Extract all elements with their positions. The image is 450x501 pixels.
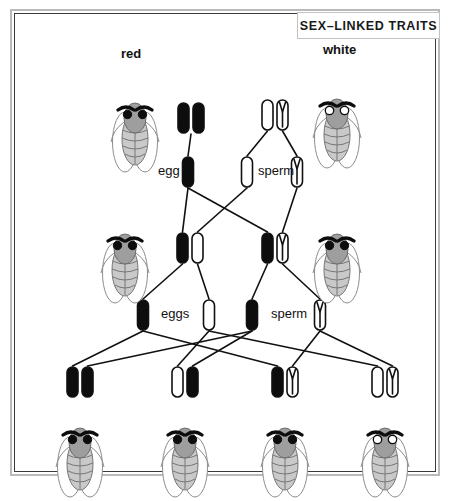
p-sperm-x-allele-0 — [242, 157, 253, 187]
fly-p-mother — [111, 103, 159, 172]
fly-eye-left — [373, 435, 381, 443]
gamete-label-f1-egg-red: eggs — [161, 306, 189, 321]
fly-f1-daughter — [101, 234, 149, 303]
fly-eye-left — [325, 241, 333, 249]
line-f1-daughter-to-egg-red — [143, 264, 183, 299]
line-sperm-y-to-f1-son — [283, 188, 298, 232]
title-plaque: SEX–LINKED TRAITS — [297, 12, 440, 39]
fly-eye-left — [68, 435, 76, 443]
fly-f2-child-4 — [361, 428, 409, 497]
fly-eye-left — [123, 110, 131, 118]
fly-eye-right — [188, 435, 196, 443]
fly-eye-left — [325, 106, 333, 114]
f1-egg-red-allele-0 — [138, 300, 149, 330]
line-egg-to-f1-son — [188, 188, 268, 232]
phenotype-label-p-father: white — [323, 42, 356, 57]
line-egg-to-f2-3 — [209, 331, 378, 366]
fly-eye-right — [388, 435, 396, 443]
gamete-label-f1-sperm-x: sperm — [271, 306, 307, 321]
line-f1-son-to-sperm-x — [252, 264, 268, 299]
f2-child-2-genotype-allele-0 — [172, 367, 183, 397]
f2-child-3-genotype-allele-0 — [272, 367, 283, 397]
fly-f2-child-2 — [161, 428, 209, 497]
fly-eye-right — [83, 435, 91, 443]
fly-layer — [56, 99, 409, 497]
fly-eye-right — [128, 241, 136, 249]
fly-eye-right — [288, 435, 296, 443]
p-father-genotype-allele-1 — [277, 100, 288, 130]
line-sperm-to-f2-3 — [320, 331, 393, 366]
f1-son-genotype-allele-0 — [262, 233, 273, 263]
fly-eye-left — [173, 435, 181, 443]
line-p-mother-to-egg — [188, 134, 191, 156]
f2-child-4-genotype-allele-1 — [387, 367, 398, 397]
f2-child-1-genotype-allele-1 — [82, 367, 93, 397]
line-p-father-to-sperm-x — [247, 131, 268, 156]
f1-sperm-x-allele-0 — [247, 300, 258, 330]
line-sperm-x-to-f1-daughter — [198, 188, 248, 232]
p-egg-allele-0 — [183, 157, 194, 187]
f1-son-genotype-allele-1 — [277, 233, 288, 263]
fly-eye-right — [340, 106, 348, 114]
line-p-father-to-sperm-y — [283, 131, 298, 156]
line-sperm-to-f2-0 — [88, 331, 253, 366]
gamete-label-p-egg: egg — [158, 163, 180, 178]
f1-daughter-genotype-allele-1 — [192, 233, 203, 263]
p-mother-genotype-allele-0 — [178, 103, 189, 133]
f1-sperm-y-allele-0 — [315, 300, 326, 330]
page-title: SEX–LINKED TRAITS — [300, 19, 437, 33]
f2-child-4-genotype-allele-0 — [372, 367, 383, 397]
fly-f1-son — [313, 234, 361, 303]
p-mother-genotype-allele-1 — [193, 103, 204, 133]
diagram-root: SEX–LINKED TRAITS — [0, 0, 450, 501]
fly-eye-left — [273, 435, 281, 443]
p-father-genotype-allele-0 — [262, 100, 273, 130]
f1-daughter-genotype-allele-0 — [177, 233, 188, 263]
fly-eye-right — [340, 241, 348, 249]
pedigree-canvas — [0, 0, 450, 501]
f1-egg-white-allele-0 — [204, 300, 215, 330]
line-sperm-to-f2-1 — [193, 331, 253, 366]
fly-f2-child-3 — [261, 428, 309, 497]
phenotype-label-p-mother: red — [121, 46, 141, 61]
f2-child-3-genotype-allele-1 — [287, 367, 298, 397]
f2-child-2-genotype-allele-1 — [187, 367, 198, 397]
fly-p-father — [313, 99, 361, 168]
fly-eye-right — [138, 110, 146, 118]
line-f1-daughter-to-egg-white — [198, 264, 210, 299]
line-egg-to-f2-0 — [73, 331, 144, 366]
fly-f2-child-1 — [56, 428, 104, 497]
f2-child-1-genotype-allele-0 — [67, 367, 78, 397]
line-egg-to-f2-2 — [143, 331, 278, 366]
gamete-label-p-sperm-y: sperm — [258, 163, 294, 178]
line-egg-to-f1-daughter — [183, 188, 189, 232]
line-egg-to-f2-1 — [178, 331, 210, 366]
fly-eye-left — [113, 241, 121, 249]
